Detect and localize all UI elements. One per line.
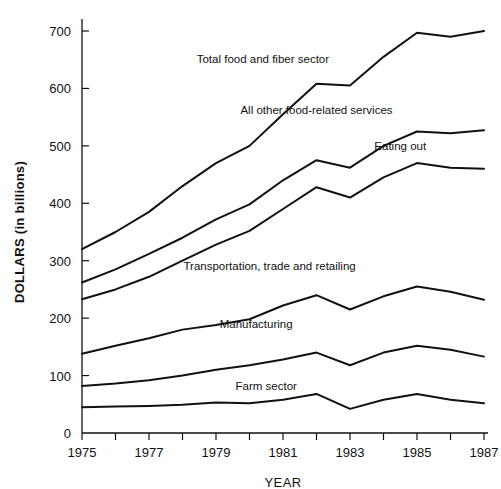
x-axis-tick-label: 1983 xyxy=(336,445,365,460)
y-axis-tick-label: 700 xyxy=(49,24,71,39)
x-axis-tick-label: 1979 xyxy=(202,445,231,460)
series-label-total-food-and-fiber-sector: Total food and fiber sector xyxy=(197,53,329,65)
series-label-eating-out: Eating out xyxy=(374,140,427,152)
y-axis-tick-label: 300 xyxy=(49,254,71,269)
line-chart: 0100200300400500600700197519771979198119… xyxy=(0,0,501,489)
series-label-farm-sector: Farm sector xyxy=(236,380,298,392)
y-axis-tick-label: 400 xyxy=(49,196,71,211)
x-axis-tick-label: 1981 xyxy=(269,445,298,460)
y-axis-tick-label: 0 xyxy=(64,426,71,441)
chart-container: 0100200300400500600700197519771979198119… xyxy=(0,0,501,489)
x-axis-tick-label: 1975 xyxy=(68,445,97,460)
x-axis-tick-label: 1987 xyxy=(470,445,499,460)
y-axis-tick-label: 500 xyxy=(49,139,71,154)
x-axis-tick-label: 1977 xyxy=(135,445,164,460)
y-axis-tick-label: 600 xyxy=(49,81,71,96)
y-axis-title: DOLLARS (in billions) xyxy=(12,161,27,303)
series-line-eating-out xyxy=(82,163,484,299)
x-axis-tick-label: 1985 xyxy=(403,445,432,460)
series-line-farm-sector xyxy=(82,394,484,409)
y-axis-tick-label: 100 xyxy=(49,369,71,384)
series-label-all-other-food-related-services: All other food-related services xyxy=(240,104,392,116)
series-label-transportation-trade-and-retailing: Transportation, trade and retailing xyxy=(184,260,356,272)
series-label-manufacturing: Manufacturing xyxy=(220,318,293,330)
x-axis-title: YEAR xyxy=(264,475,301,489)
y-axis-tick-label: 200 xyxy=(49,311,71,326)
